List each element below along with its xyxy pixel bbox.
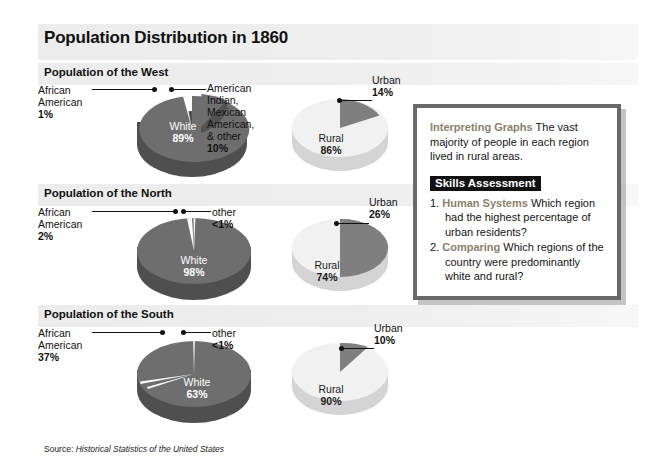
leader-dot-south-other bbox=[181, 330, 186, 335]
source-prefix: Source: bbox=[44, 444, 76, 454]
question-number: 2. bbox=[430, 241, 439, 253]
figure-root: Population Distribution in 1860 Populati… bbox=[0, 0, 663, 476]
status-badge: Skills Assessment bbox=[430, 176, 541, 191]
list-item: 2. Comparing Which regions of the countr… bbox=[430, 240, 605, 284]
leader-north-urban bbox=[337, 223, 369, 224]
source-note: Source: Historical Statistics of the Uni… bbox=[44, 444, 224, 454]
leader-dot-west-urban bbox=[337, 98, 342, 103]
leader-south-other bbox=[184, 332, 211, 333]
leader-north-african-american bbox=[92, 211, 175, 212]
pie-chart-north-race bbox=[122, 203, 272, 303]
leader-dot-north-african-american bbox=[173, 209, 178, 214]
section-heading-north: Population of the North bbox=[44, 187, 172, 199]
leader-dot-south-urban bbox=[339, 346, 344, 351]
pie-svg-north-race bbox=[122, 203, 272, 303]
leader-dot-north-urban bbox=[334, 221, 339, 226]
label-west-white: White89% bbox=[152, 120, 214, 144]
leader-south-urban bbox=[342, 348, 374, 349]
section-heading-west: Population of the West bbox=[44, 66, 168, 78]
label-north-african-american: African American2% bbox=[38, 206, 82, 242]
leader-west-urban bbox=[340, 100, 372, 101]
question-term: Comparing bbox=[442, 241, 500, 253]
label-south-white: White63% bbox=[166, 376, 228, 400]
leader-west-african-american bbox=[92, 89, 154, 90]
label-north-white: White98% bbox=[163, 254, 225, 278]
interpreting-graphs-term: Interpreting Graphs bbox=[430, 121, 533, 133]
pie-svg-north-residence bbox=[290, 206, 400, 302]
label-south-urban: Urban10% bbox=[374, 322, 403, 346]
label-north-rural: Rural74% bbox=[296, 259, 358, 283]
label-north-urban: Urban26% bbox=[369, 196, 398, 220]
question-term: Human Systems bbox=[442, 197, 528, 209]
source-title: Historical Statistics of the United Stat… bbox=[76, 444, 224, 454]
leader-north-other bbox=[184, 211, 211, 212]
label-west-other: American Indian, Mexican American, & oth… bbox=[207, 82, 254, 154]
leader-dot-west-african-american bbox=[152, 87, 157, 92]
label-west-african-american: African American1% bbox=[38, 84, 82, 120]
leader-west-other bbox=[172, 89, 206, 90]
leader-dot-north-other bbox=[181, 209, 186, 214]
leader-dot-south-african-american bbox=[160, 330, 165, 335]
label-south-rural: Rural90% bbox=[300, 383, 362, 407]
section-heading-south: Population of the South bbox=[44, 308, 174, 320]
leader-dot-west-other bbox=[169, 87, 174, 92]
label-south-other: other<1% bbox=[212, 327, 236, 351]
interpreting-graphs-paragraph: Interpreting Graphs The vast majority of… bbox=[430, 120, 605, 164]
question-number: 1. bbox=[430, 197, 439, 209]
label-west-urban: Urban14% bbox=[372, 74, 401, 98]
page-title: Population Distribution in 1860 bbox=[44, 28, 288, 48]
label-north-other: other<1% bbox=[212, 206, 236, 230]
leader-south-african-american bbox=[92, 332, 162, 333]
questions-list: 1. Human Systems Which region had the hi… bbox=[430, 196, 605, 284]
pie-chart-north-residence bbox=[290, 206, 400, 302]
skills-assessment-box: Interpreting Graphs The vast majority of… bbox=[413, 104, 621, 300]
label-south-african-american: African American37% bbox=[38, 327, 82, 363]
list-item: 1. Human Systems Which region had the hi… bbox=[430, 196, 605, 240]
skills-assessment-content: Interpreting Graphs The vast majority of… bbox=[417, 108, 617, 284]
label-west-rural: Rural86% bbox=[300, 132, 362, 156]
